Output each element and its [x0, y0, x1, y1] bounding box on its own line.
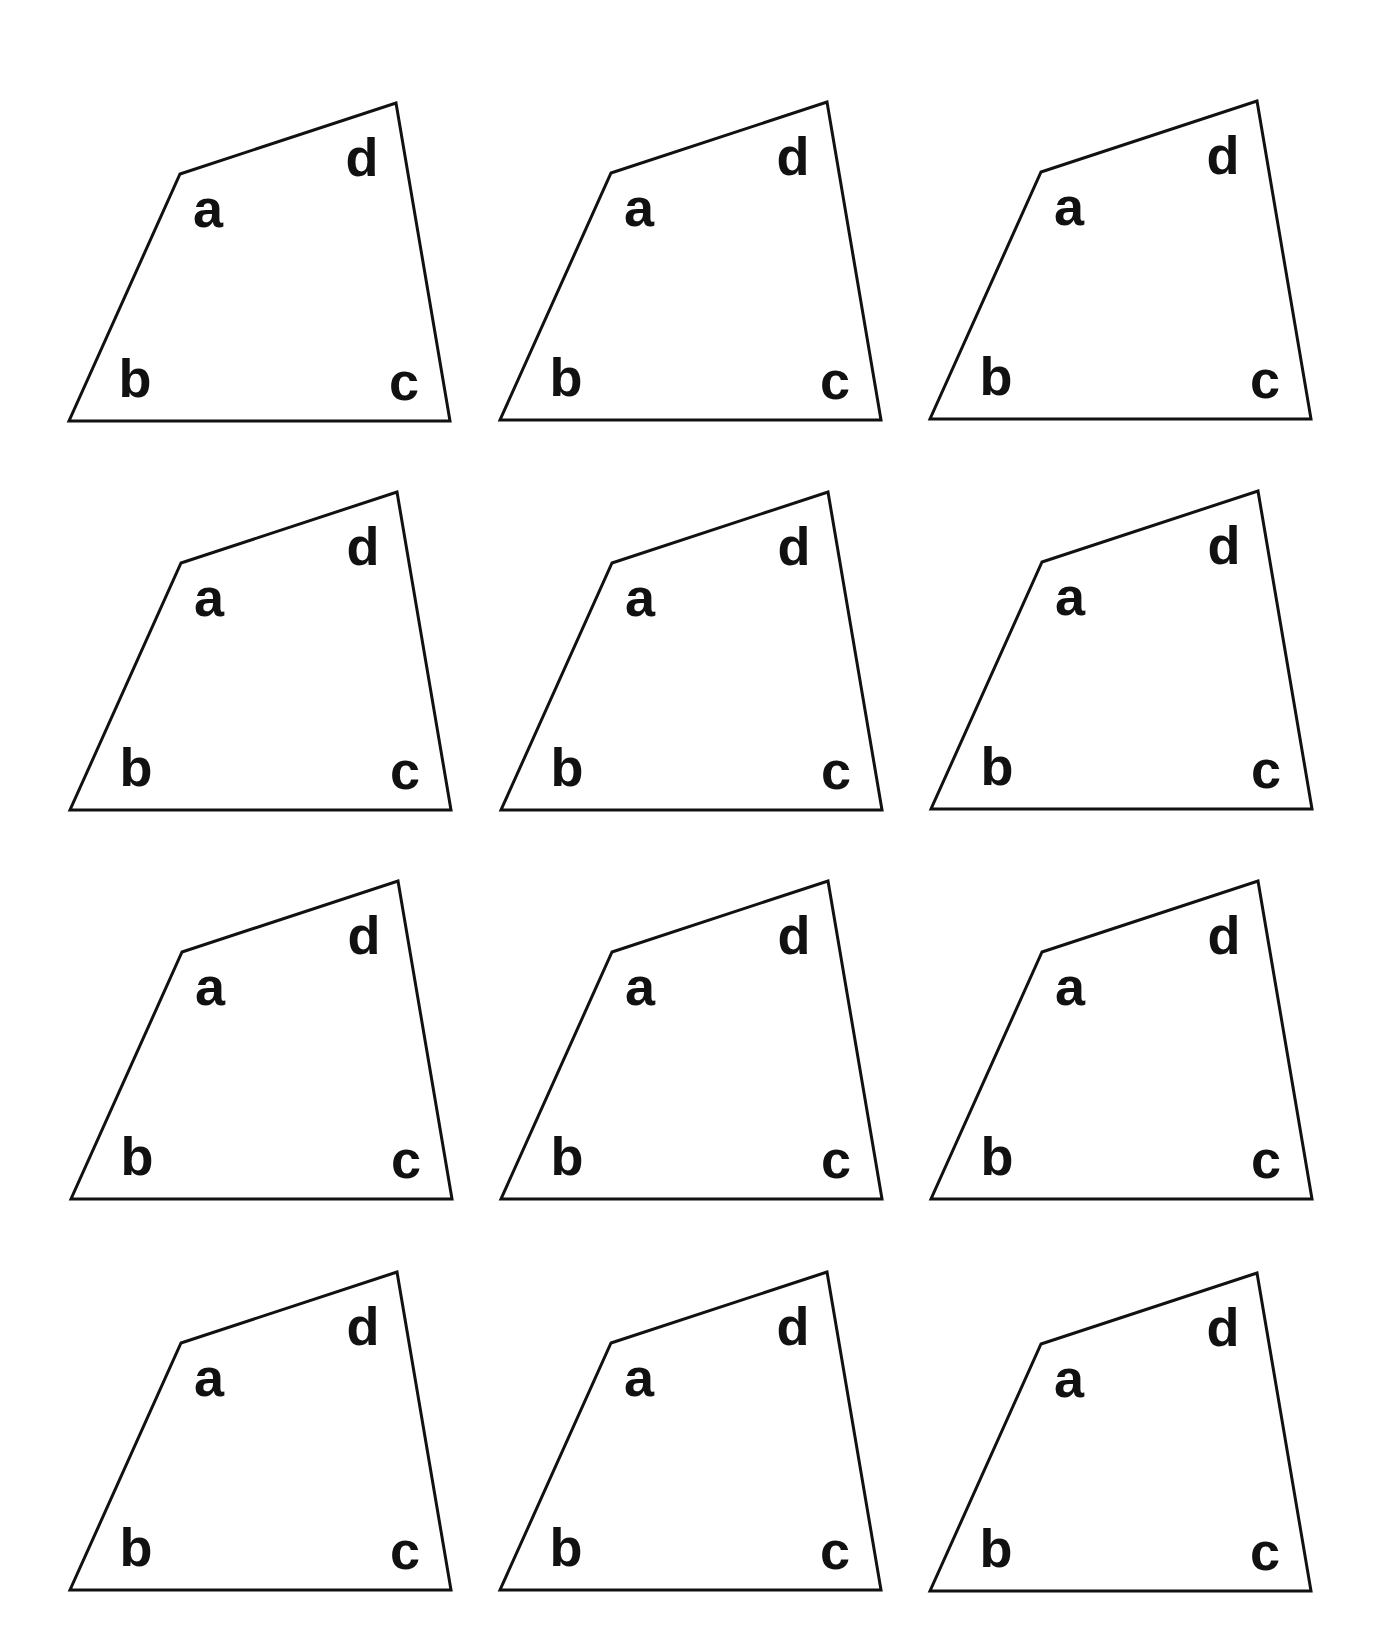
vertex-label-d: d — [1208, 905, 1241, 965]
vertex-label-b: b — [980, 346, 1013, 406]
vertex-label-d: d — [347, 516, 380, 576]
vertex-label-c: c — [390, 1520, 420, 1580]
vertex-label-c: c — [1251, 1129, 1281, 1189]
vertex-label-d: d — [778, 905, 811, 965]
vertex-label-c: c — [821, 1129, 851, 1189]
vertex-label-a: a — [625, 567, 656, 627]
vertex-label-a: a — [195, 956, 226, 1016]
vertex-label-c: c — [1251, 739, 1281, 799]
quadrilateral-r4-c2: abcd — [500, 1272, 881, 1590]
quadrilateral-r2-c3: abcd — [931, 491, 1312, 809]
vertex-label-b: b — [551, 1126, 584, 1186]
quadrilateral-grid: abcdabcdabcdabcdabcdabcdabcdabcdabcdabcd… — [0, 0, 1381, 1646]
vertex-label-b: b — [120, 1517, 153, 1577]
vertex-label-a: a — [193, 178, 224, 238]
vertex-label-a: a — [625, 956, 656, 1016]
quadrilateral-r3-c2: abcd — [501, 881, 882, 1199]
vertex-label-b: b — [981, 1126, 1014, 1186]
vertex-label-a: a — [1054, 176, 1085, 236]
quadrilateral-r3-c1: abcd — [71, 881, 452, 1199]
quadrilateral-r1-c1: abcd — [69, 103, 450, 421]
vertex-label-a: a — [1054, 1348, 1085, 1408]
vertex-label-b: b — [550, 347, 583, 407]
vertex-label-a: a — [194, 1347, 225, 1407]
vertex-label-d: d — [347, 1296, 380, 1356]
quadrilateral-r4-c3: abcd — [930, 1273, 1311, 1591]
vertex-label-c: c — [389, 351, 419, 411]
vertex-label-d: d — [777, 126, 810, 186]
vertex-label-b: b — [551, 737, 584, 797]
vertex-label-c: c — [821, 740, 851, 800]
vertex-label-a: a — [1055, 566, 1086, 626]
vertex-label-c: c — [1250, 1521, 1280, 1581]
vertex-label-b: b — [550, 1517, 583, 1577]
vertex-label-d: d — [1208, 515, 1241, 575]
vertex-label-b: b — [981, 736, 1014, 796]
vertex-label-c: c — [820, 350, 850, 410]
vertex-label-d: d — [346, 127, 379, 187]
vertex-label-d: d — [1207, 125, 1240, 185]
vertex-label-d: d — [348, 905, 381, 965]
quadrilateral-r1-c2: abcd — [500, 102, 881, 420]
vertex-label-c: c — [820, 1520, 850, 1580]
vertex-label-a: a — [194, 567, 225, 627]
vertex-label-d: d — [1207, 1297, 1240, 1357]
quadrilateral-r3-c3: abcd — [931, 881, 1312, 1199]
vertex-label-c: c — [390, 740, 420, 800]
quadrilateral-r4-c1: abcd — [70, 1272, 451, 1590]
vertex-label-a: a — [1055, 956, 1086, 1016]
vertex-label-c: c — [1250, 349, 1280, 409]
vertex-label-b: b — [119, 348, 152, 408]
vertex-label-b: b — [120, 737, 153, 797]
vertex-label-d: d — [778, 516, 811, 576]
vertex-label-a: a — [624, 177, 655, 237]
quadrilateral-r1-c3: abcd — [930, 101, 1311, 419]
vertex-label-b: b — [980, 1518, 1013, 1578]
vertex-label-c: c — [391, 1129, 421, 1189]
vertex-label-a: a — [624, 1347, 655, 1407]
quadrilateral-r2-c2: abcd — [501, 492, 882, 810]
vertex-label-d: d — [777, 1296, 810, 1356]
quadrilateral-r2-c1: abcd — [70, 492, 451, 810]
vertex-label-b: b — [121, 1126, 154, 1186]
